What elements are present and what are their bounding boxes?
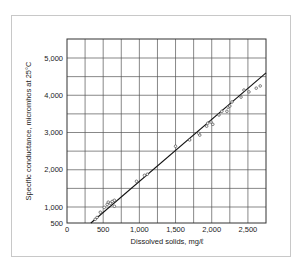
- data-point: [135, 180, 138, 183]
- chart: 05001,0001,5002,0002,500 5001,0002,0003,…: [0, 0, 304, 267]
- y-tick-label: 3,000: [44, 128, 63, 137]
- data-point: [212, 123, 215, 126]
- plot-area: [67, 39, 266, 223]
- x-tick-label: 1,000: [130, 225, 149, 234]
- y-tick-label: 5,000: [44, 54, 63, 63]
- y-axis-ticks: 5001,0002,0003,0004,0005,000: [44, 54, 63, 228]
- data-point: [243, 89, 246, 92]
- data-points: [94, 85, 262, 221]
- data-point: [206, 122, 209, 125]
- data-point: [240, 96, 243, 99]
- data-point: [174, 145, 177, 148]
- data-point: [248, 91, 251, 94]
- x-axis-label: Dissolved solids, mg/ℓ: [131, 237, 204, 246]
- data-point: [218, 114, 221, 117]
- y-axis-label: Specific conductance, micromhos at 25°C: [24, 61, 33, 200]
- x-tick-label: 500: [97, 225, 110, 234]
- data-point: [221, 110, 224, 113]
- x-tick-label: 2,000: [202, 225, 221, 234]
- data-point: [205, 125, 208, 128]
- data-point: [96, 216, 99, 219]
- x-tick-label: 0: [65, 225, 69, 234]
- data-point: [198, 134, 201, 137]
- data-point: [146, 173, 149, 176]
- data-point: [103, 206, 106, 209]
- data-point: [226, 110, 229, 113]
- data-point: [255, 87, 258, 90]
- y-tick-label: 500: [50, 219, 63, 228]
- data-point: [113, 205, 116, 208]
- grid-lines: [67, 39, 266, 223]
- y-tick-label: 2,000: [44, 165, 63, 174]
- data-point: [210, 121, 213, 124]
- data-point: [229, 105, 232, 108]
- y-tick-label: 4,000: [44, 91, 63, 100]
- data-point: [188, 139, 191, 142]
- data-point: [231, 101, 234, 104]
- x-axis-ticks: 05001,0001,5002,0002,500: [65, 225, 257, 234]
- y-tick-label: 1,000: [44, 203, 63, 212]
- data-point: [259, 85, 262, 88]
- data-point: [99, 211, 102, 214]
- x-tick-label: 2,500: [239, 225, 258, 234]
- data-point: [113, 199, 116, 202]
- data-point: [143, 174, 146, 177]
- x-tick-label: 1,500: [166, 225, 185, 234]
